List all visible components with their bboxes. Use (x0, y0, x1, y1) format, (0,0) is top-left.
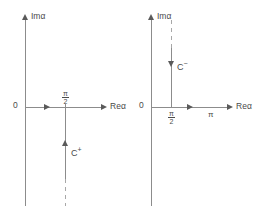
tick-numerator: π (168, 110, 175, 117)
imaginary-axis-variable: α (40, 11, 45, 21)
tick-numerator: π (62, 90, 69, 97)
real-axis-line (25, 107, 103, 108)
imaginary-axis-arrowhead (148, 14, 154, 20)
real-axis-label: Reα (236, 102, 252, 111)
contour-label-c-minus: C− (177, 59, 188, 72)
tick-denominator: 2 (168, 118, 175, 125)
real-axis-label-text: Re (110, 101, 121, 111)
contour-sign: + (78, 146, 82, 153)
real-axis-variable: α (121, 101, 126, 111)
contour-line-dashed (171, 20, 172, 48)
imaginary-axis-line (151, 20, 152, 206)
imaginary-axis-label: Imα (157, 12, 171, 21)
real-axis-label-text: Re (236, 101, 247, 111)
real-axis-direction-arrow (187, 104, 193, 110)
imaginary-axis-line (25, 20, 26, 206)
contour-sign: − (184, 60, 188, 67)
real-axis-label: Reα (110, 102, 126, 111)
real-axis-arrowhead (227, 104, 233, 110)
tick-label-pi-over-2: π 2 (168, 110, 175, 125)
contour-line-solid (171, 48, 172, 108)
contour-direction-arrowhead (62, 140, 68, 146)
real-axis-direction-arrow (44, 104, 50, 110)
panel-contour-c-minus: Imα Reα 0 π 2 π C− (129, 0, 258, 214)
imaginary-axis-label: Imα (31, 12, 45, 21)
contour-diagram-figure: Imα Reα 0 π 2 C+ (0, 0, 258, 214)
contour-line-dashed (65, 179, 66, 206)
contour-direction-arrowhead (168, 61, 174, 67)
origin-label: 0 (13, 101, 18, 110)
origin-label: 0 (139, 101, 144, 110)
panel-contour-c-plus: Imα Reα 0 π 2 C+ (0, 0, 129, 214)
contour-label-c-plus: C+ (71, 145, 82, 158)
real-axis-variable: α (247, 101, 252, 111)
real-axis-arrowhead (101, 104, 107, 110)
imaginary-axis-arrowhead (22, 14, 28, 20)
tick-label-pi: π (208, 110, 214, 119)
